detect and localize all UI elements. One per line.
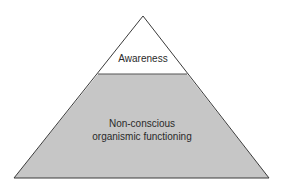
- non-conscious-label-line-2: organismic functioning: [81, 131, 203, 144]
- non-conscious-label: Non-conscious organismic functioning: [81, 118, 203, 143]
- non-conscious-label-line-1: Non-conscious: [81, 118, 203, 131]
- awareness-label: Awareness: [103, 53, 183, 66]
- pyramid-diagram: [0, 0, 282, 191]
